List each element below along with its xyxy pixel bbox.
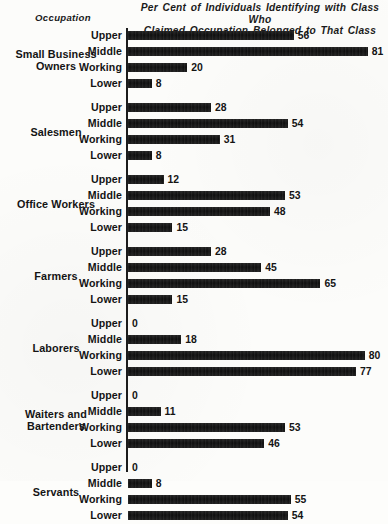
class-label-working: Working: [12, 277, 122, 290]
bar: [128, 263, 261, 272]
bar-value-label: 54: [292, 511, 304, 520]
bar-group: FarmersUpper28Middle45Working65Lower15: [0, 244, 388, 316]
class-label-lower: Lower: [12, 149, 122, 162]
bar-and-value: 45: [128, 263, 277, 272]
bar-and-value: 8: [128, 151, 161, 160]
bar-and-value: 56: [128, 31, 309, 40]
class-label-middle: Middle: [12, 333, 122, 346]
bar-row: Lower8: [0, 148, 388, 164]
bar-and-value: 0: [128, 391, 138, 400]
bar-row: Middle18: [0, 332, 388, 348]
bar-and-value: 12: [128, 175, 179, 184]
bar: [128, 335, 181, 344]
bar: [128, 103, 211, 112]
chart-title-line-1: Per Cent of Individuals Identifying with…: [134, 2, 386, 25]
bar-and-value: 31: [128, 135, 235, 144]
class-label-upper: Upper: [12, 389, 122, 402]
bar-group: LaborersUpper0Middle18Working80Lower77: [0, 316, 388, 388]
bar-value-label: 48: [274, 207, 286, 216]
bar-row: Lower8: [0, 76, 388, 92]
bar-value-label: 8: [156, 151, 162, 160]
bar-and-value: 53: [128, 423, 300, 432]
class-label-upper: Upper: [12, 101, 122, 114]
bar-and-value: 11: [128, 407, 176, 416]
bar: [128, 79, 152, 88]
bar-value-label: 45: [265, 263, 277, 272]
class-label-middle: Middle: [12, 405, 122, 418]
bar-row: Upper56: [0, 28, 388, 44]
bar-and-value: 46: [128, 439, 280, 448]
class-label-working: Working: [12, 61, 122, 74]
bar: [128, 407, 161, 416]
bar-value-label: 31: [224, 135, 236, 144]
bar-and-value: 53: [128, 191, 300, 200]
bar-row: Middle54: [0, 116, 388, 132]
bar: [128, 479, 152, 488]
bar-and-value: 15: [128, 223, 188, 232]
bar-value-label: 56: [298, 31, 310, 40]
bar-row: Upper0: [0, 388, 388, 404]
bar-and-value: 48: [128, 207, 286, 216]
bar-group: Waiters andBartendersUpper0Middle11Worki…: [0, 388, 388, 460]
bar-row: Working48: [0, 204, 388, 220]
bar-group-list: Small BusinessOwnersUpper56Middle81Worki…: [0, 28, 388, 524]
bar: [128, 135, 220, 144]
occupation-axis-caption: Occupation: [0, 12, 126, 23]
class-label-upper: Upper: [12, 245, 122, 258]
bar: [128, 151, 152, 160]
bar: [128, 367, 356, 376]
bar-value-label: 54: [292, 119, 304, 128]
bar-value-label: 15: [176, 223, 188, 232]
bar: [128, 47, 368, 56]
bar-row: Middle81: [0, 44, 388, 60]
bar-value-label: 0: [132, 319, 138, 328]
class-label-lower: Lower: [12, 221, 122, 234]
bar-row: Working53: [0, 420, 388, 436]
bar: [128, 175, 164, 184]
bar: [128, 495, 291, 504]
bar-row: Lower15: [0, 220, 388, 236]
class-label-middle: Middle: [12, 45, 122, 58]
bar-and-value: 54: [128, 511, 303, 520]
bar-and-value: 55: [128, 495, 306, 504]
class-label-lower: Lower: [12, 509, 122, 522]
bar: [128, 439, 264, 448]
bar-value-label: 18: [185, 335, 197, 344]
bar-row: Lower46: [0, 436, 388, 452]
bar-row: Working65: [0, 276, 388, 292]
class-label-middle: Middle: [12, 189, 122, 202]
bar-value-label: 0: [132, 391, 138, 400]
bar-and-value: 65: [128, 279, 336, 288]
bar-value-label: 65: [324, 279, 336, 288]
class-label-working: Working: [12, 493, 122, 506]
bar-row: Upper28: [0, 244, 388, 260]
class-label-lower: Lower: [12, 77, 122, 90]
bar-and-value: 0: [128, 319, 138, 328]
bar-value-label: 53: [289, 191, 301, 200]
bar-value-label: 28: [215, 247, 227, 256]
class-label-working: Working: [12, 205, 122, 218]
bar-and-value: 77: [128, 367, 371, 376]
bar: [128, 207, 270, 216]
bar-and-value: 0: [128, 463, 138, 472]
bar: [128, 351, 365, 360]
bar-value-label: 12: [168, 175, 180, 184]
bar: [128, 511, 288, 520]
class-label-middle: Middle: [12, 477, 122, 490]
bar: [128, 279, 320, 288]
bar: [128, 191, 285, 200]
class-label-middle: Middle: [12, 117, 122, 130]
class-label-upper: Upper: [12, 29, 122, 42]
bar-value-label: 8: [156, 79, 162, 88]
bar-row: Working31: [0, 132, 388, 148]
bar-and-value: 28: [128, 103, 226, 112]
bar-and-value: 8: [128, 79, 161, 88]
bar-value-label: 0: [132, 463, 138, 472]
bar: [128, 295, 172, 304]
bar: [128, 119, 288, 128]
bar: [128, 223, 172, 232]
bar-value-label: 20: [191, 63, 203, 72]
bar-and-value: 15: [128, 295, 188, 304]
bar-and-value: 18: [128, 335, 197, 344]
bar-row: Lower54: [0, 508, 388, 524]
